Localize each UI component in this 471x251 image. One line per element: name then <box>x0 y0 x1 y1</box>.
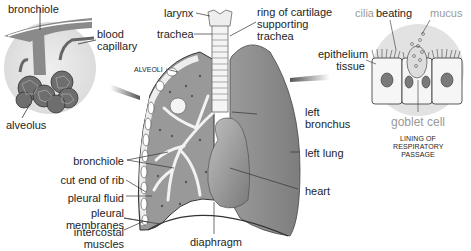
label-ring-line1: ring of cartilage <box>257 6 332 18</box>
label-epithelium-line1: epithelium <box>318 48 365 60</box>
label-goblet-cell: goblet cell <box>391 116 445 128</box>
label-beating: beating <box>376 7 412 19</box>
label-cut-end-of-rib: cut end of rib <box>40 174 124 186</box>
label-ring-of-cartilage: ring of cartilage supporting trachea <box>257 6 332 42</box>
label-heart: heart <box>305 185 330 197</box>
respiratory-lining-inset <box>366 20 464 116</box>
label-trachea: trachea <box>157 28 194 40</box>
magnify-ray-left <box>110 84 140 100</box>
magnify-ray-right <box>290 74 330 82</box>
label-ring-line2: supporting <box>257 18 332 30</box>
label-alveolus: alveolus <box>6 119 46 131</box>
label-left-bronchus: left bronchus <box>305 106 350 130</box>
label-intercostal-line2: muscles <box>40 238 124 250</box>
label-ring-line3: trachea <box>257 30 332 42</box>
label-intercostal-line1: intercostal <box>40 226 124 238</box>
label-epithelium-tissue: epithelium tissue <box>330 48 365 72</box>
label-left-bronchus-line1: left <box>305 106 350 118</box>
label-lining-line2: RESPIRATORY <box>393 143 443 151</box>
label-pleural-fluid: pleural fluid <box>40 192 124 204</box>
label-mucus: mucus <box>430 7 462 19</box>
label-left-bronchus-line2: bronchus <box>305 118 350 130</box>
label-epithelium-line2: tissue <box>330 60 365 72</box>
label-alveoli: ALVEOLI <box>134 66 163 74</box>
label-lining-line3: PASSAGE <box>393 151 443 159</box>
label-blood-capillary: blood capillary <box>97 28 137 52</box>
label-bronchiole-inset: bronchiole <box>8 3 59 15</box>
larynx <box>208 10 232 26</box>
label-blood-capillary-line1: blood <box>97 28 137 40</box>
label-cilia: cilia <box>355 7 374 19</box>
label-blood-capillary-line2: capillary <box>97 40 137 52</box>
label-intercostal-muscles: intercostal muscles <box>40 226 124 250</box>
label-left-lung: left lung <box>305 147 344 159</box>
respiratory-diagram: bronchiole blood capillary alveolus lary… <box>0 0 471 251</box>
label-lining-of-respiratory-passage: LINING OF RESPIRATORY PASSAGE <box>393 135 443 159</box>
alveoli-inset <box>4 8 96 118</box>
right-lung-cutaway <box>138 52 214 230</box>
label-diaphragm: diaphragm <box>190 236 242 248</box>
label-larynx: larynx <box>164 7 193 19</box>
label-pleural-membranes-line1: pleural <box>40 207 124 219</box>
trachea <box>208 10 232 112</box>
label-lining-line1: LINING OF <box>393 135 443 143</box>
label-bronchiole: bronchiole <box>40 155 124 167</box>
